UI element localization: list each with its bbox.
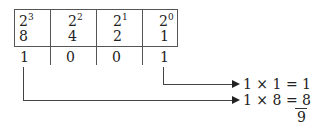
equation: 1 × 1 = 1	[243, 77, 311, 92]
table-divider	[50, 9, 51, 65]
connector-line	[163, 84, 233, 85]
table-divider	[142, 9, 143, 65]
arrow-right-icon	[232, 80, 240, 88]
arrow-right-icon	[232, 96, 240, 104]
connector-line	[23, 100, 233, 101]
bit-value: 1	[20, 50, 29, 65]
sum-result: 9	[297, 110, 306, 125]
connector-line	[23, 67, 24, 101]
power-label: 23	[19, 14, 34, 29]
place-value: 8	[19, 29, 28, 44]
equation: 1 × 8 = 8	[243, 93, 311, 108]
power-label: 20	[159, 14, 174, 29]
place-value: 4	[68, 29, 77, 44]
table-divider	[96, 9, 97, 65]
place-value: 2	[113, 29, 122, 44]
power-label: 21	[113, 14, 128, 29]
bit-value: 0	[66, 50, 75, 65]
connector-line	[163, 67, 164, 85]
power-label: 22	[68, 14, 83, 29]
bit-value: 1	[160, 50, 169, 65]
place-value: 1	[160, 29, 169, 44]
bit-value: 0	[112, 50, 121, 65]
